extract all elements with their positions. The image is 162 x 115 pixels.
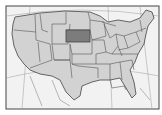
state-south-dakota[interactable] — [66, 30, 90, 42]
us-map — [0, 0, 162, 115]
